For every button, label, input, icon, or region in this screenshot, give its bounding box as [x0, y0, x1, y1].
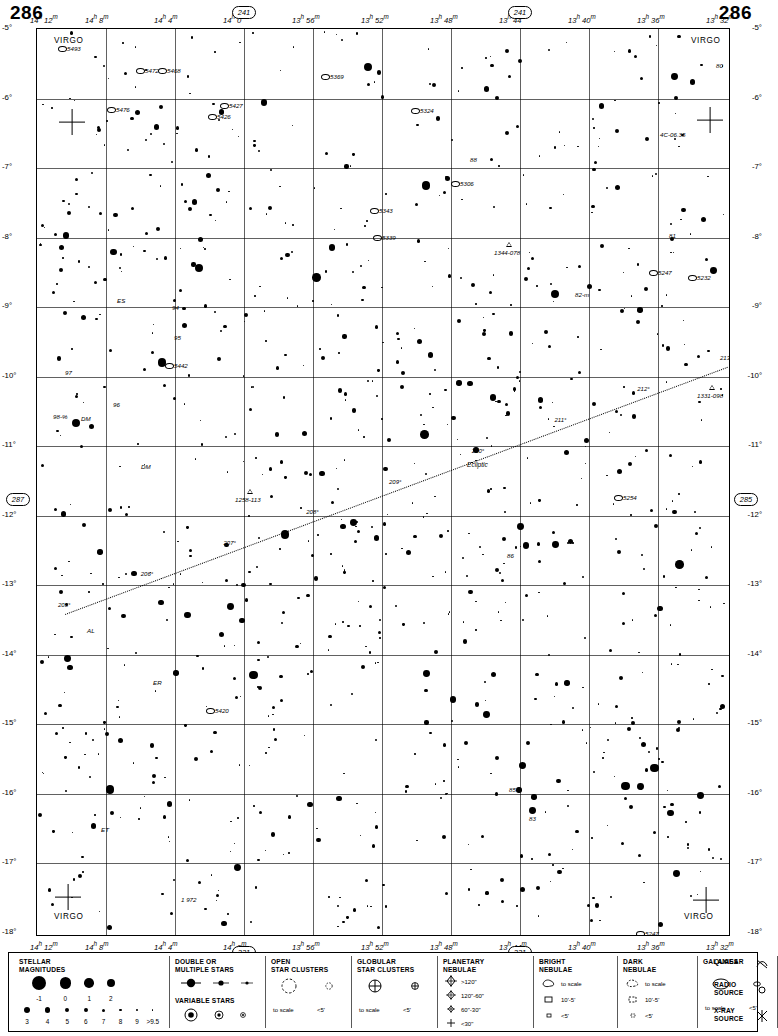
star-marker	[64, 756, 66, 758]
legend-bn-row: <5'	[541, 1007, 569, 1025]
star-marker	[131, 571, 136, 576]
dec-tick-left: -5°	[2, 23, 12, 32]
star-marker	[266, 213, 268, 215]
star-marker	[338, 388, 342, 392]
star-marker	[189, 549, 192, 552]
star-marker	[436, 116, 440, 120]
star-marker	[153, 324, 155, 326]
star-marker	[346, 243, 348, 245]
star-marker	[414, 328, 416, 330]
star-marker	[624, 797, 627, 800]
legend-dn-row: <5'	[625, 1007, 653, 1025]
star-marker	[572, 849, 574, 851]
star-marker	[685, 821, 687, 823]
star-marker	[572, 707, 574, 709]
legend-mag-title-2: MAGNITUDES	[19, 966, 167, 974]
legend-pn-title-1: PLANETARY	[443, 958, 533, 966]
star-marker	[255, 886, 257, 888]
ecliptic-tick: 211°	[555, 417, 567, 423]
adjacent-chart-pill[interactable]: 241	[508, 6, 532, 19]
star-marker	[666, 381, 668, 383]
star-marker	[287, 297, 289, 299]
star-marker	[163, 384, 166, 387]
star-marker	[164, 777, 166, 779]
star-marker	[635, 456, 637, 458]
star-marker	[553, 301, 555, 303]
dec-tick-right: -13°	[748, 579, 762, 588]
star-marker	[591, 205, 594, 208]
adjacent-chart-pill[interactable]: 241	[232, 6, 256, 19]
object-label: 83	[529, 815, 536, 822]
star-marker	[581, 478, 583, 480]
star-marker	[445, 176, 450, 181]
star-marker	[423, 622, 425, 624]
star-marker	[539, 155, 541, 157]
star-marker	[316, 828, 318, 830]
star-marker	[654, 614, 657, 617]
star-marker	[377, 926, 380, 929]
star-marker	[280, 699, 283, 702]
star-marker	[552, 531, 555, 534]
star-marker	[566, 267, 568, 269]
star-marker	[645, 137, 649, 141]
star-marker	[250, 921, 252, 923]
star-marker	[70, 636, 72, 638]
legend-mag-dot	[32, 976, 46, 990]
star-marker	[272, 714, 274, 716]
star-marker	[619, 676, 623, 680]
star-marker	[249, 765, 251, 767]
star-marker	[352, 408, 356, 412]
star-marker	[447, 530, 449, 532]
star-marker	[460, 277, 462, 279]
ecliptic-tick: 212°	[637, 386, 649, 392]
star-marker	[622, 592, 625, 595]
ra-tick-bottom: 13h 48m	[430, 940, 458, 952]
star-marker	[276, 366, 279, 369]
star-marker	[257, 686, 259, 688]
star-marker	[124, 72, 127, 75]
star-marker	[478, 904, 480, 906]
star-marker	[432, 83, 436, 87]
legend-bn-label: 10'-5'	[561, 997, 575, 1003]
legend-pn-label: 120"-60"	[461, 993, 484, 999]
star-marker	[383, 522, 386, 525]
dec-tick-left: -18°	[2, 927, 16, 936]
star-marker	[243, 461, 245, 463]
star-marker	[621, 842, 624, 845]
star-marker	[358, 429, 360, 431]
star-marker	[343, 571, 345, 573]
star-marker	[701, 419, 703, 421]
star-marker	[535, 673, 538, 676]
adjacent-chart-pill[interactable]: 287	[6, 493, 30, 506]
star-marker	[292, 224, 294, 226]
star-marker	[43, 773, 45, 775]
star-marker	[417, 339, 422, 344]
star-marker	[395, 605, 397, 607]
star-marker	[270, 495, 273, 498]
star-marker	[255, 457, 257, 459]
star-marker	[671, 73, 678, 80]
star-marker	[544, 330, 548, 334]
star-marker	[179, 289, 182, 292]
object-label: 80	[716, 62, 723, 69]
star-marker	[687, 847, 689, 849]
star-marker	[265, 850, 267, 852]
star-marker	[461, 67, 463, 69]
star-marker	[302, 431, 307, 436]
star-marker	[508, 75, 511, 78]
star-marker	[365, 879, 368, 882]
star-marker	[234, 433, 236, 435]
star-marker	[300, 507, 302, 509]
star-marker	[133, 246, 135, 248]
star-marker	[490, 488, 492, 490]
star-marker	[510, 304, 512, 306]
star-marker	[167, 801, 172, 806]
adjacent-chart-pill[interactable]: 285	[734, 493, 758, 506]
star-marker	[699, 811, 701, 813]
star-marker	[429, 393, 431, 395]
star-marker	[355, 521, 357, 523]
star-marker	[340, 524, 345, 529]
star-marker	[631, 721, 635, 725]
legend-mag-label: 3	[18, 1018, 36, 1025]
star-marker	[716, 712, 718, 714]
